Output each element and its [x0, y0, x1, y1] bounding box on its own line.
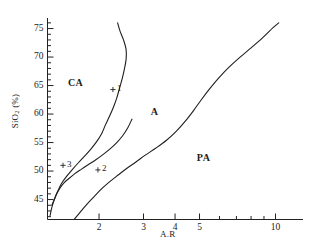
y-tick-label: 65: [14, 81, 44, 91]
axis-lines: [48, 18, 304, 220]
y-tick-label: 45: [14, 195, 44, 205]
field-label-pa: PA: [197, 153, 210, 163]
boundary-curves: [50, 23, 279, 219]
y-tick-label: 75: [14, 24, 44, 34]
boundary-curve: [75, 23, 279, 219]
y-tick-label: 55: [14, 138, 44, 148]
y-axis-title-wrapper: SiO2 (%): [4, 76, 18, 146]
field-label-ca: CA: [68, 78, 83, 88]
x-tick-label: 3: [132, 223, 156, 233]
x-tick-label: 2: [87, 223, 111, 233]
data-point-label: 3: [67, 160, 72, 169]
field-label-a: A: [151, 107, 159, 117]
y-axis-title-pre: SiO: [10, 114, 20, 129]
y-tick-marks: [48, 23, 54, 217]
chart-figure: 45505560657075 234510 CAAPA 123 SiO2 (%)…: [0, 0, 309, 251]
x-axis-title: A.R: [160, 230, 175, 239]
y-axis-title: SiO2 (%): [10, 94, 20, 129]
data-point-label: 1: [117, 84, 122, 93]
x-tick-label: 10: [264, 223, 288, 233]
x-tick-marks: [99, 214, 275, 220]
y-tick-label: 50: [14, 166, 44, 176]
y-axis-title-post: (%): [10, 94, 20, 111]
boundary-curve: [52, 119, 132, 205]
data-point-label: 2: [102, 164, 107, 173]
y-tick-label: 70: [14, 52, 44, 62]
x-tick-label: 5: [188, 223, 212, 233]
y-axis-title-subscript: 2: [13, 110, 20, 113]
plot-canvas: [0, 0, 309, 251]
